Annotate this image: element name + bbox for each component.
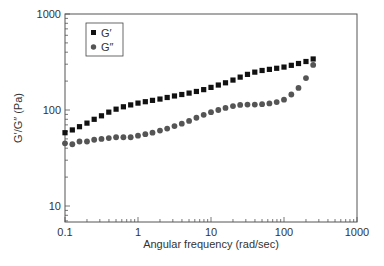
- data-point-circle: [281, 97, 287, 103]
- data-point-square: [311, 56, 316, 61]
- data-point-circle: [128, 134, 134, 140]
- data-point-square: [128, 102, 133, 107]
- data-point-circle: [296, 85, 302, 91]
- series-g-double-prime: [62, 62, 316, 147]
- data-point-square: [289, 63, 294, 68]
- data-point-square: [113, 107, 118, 112]
- data-point-square: [252, 70, 257, 75]
- data-point-square: [92, 117, 97, 122]
- x-tick-label: 10: [205, 226, 217, 238]
- data-point-circle: [69, 141, 75, 147]
- x-axis-ticks: 0.11101001000: [57, 217, 369, 238]
- data-point-square: [281, 64, 286, 69]
- data-point-square: [274, 66, 279, 71]
- data-point-square: [216, 82, 221, 87]
- data-point-square: [143, 99, 148, 104]
- data-point-circle: [303, 75, 309, 81]
- data-point-circle: [223, 105, 229, 111]
- chart: 0.11101001000 101001000 G′ G″ Angular fr…: [0, 0, 384, 266]
- data-point-square: [238, 75, 243, 80]
- legend-label-g-double-prime: G″: [101, 41, 114, 53]
- data-point-circle: [84, 139, 90, 145]
- data-point-square: [150, 98, 155, 103]
- data-point-square: [121, 104, 126, 109]
- data-point-square: [70, 127, 75, 132]
- data-point-circle: [164, 126, 170, 132]
- legend-circle-marker-icon: [91, 44, 96, 49]
- legend-label-g-prime: G′: [101, 27, 112, 39]
- data-point-circle: [91, 137, 97, 143]
- data-point-square: [62, 130, 67, 135]
- data-point-circle: [186, 118, 192, 124]
- data-point-square: [165, 95, 170, 100]
- data-point-circle: [99, 136, 105, 142]
- data-point-square: [186, 90, 191, 95]
- data-point-circle: [267, 101, 273, 107]
- legend-square-marker-icon: [91, 30, 96, 35]
- data-point-square: [157, 96, 162, 101]
- data-point-square: [223, 80, 228, 85]
- data-point-circle: [274, 99, 280, 105]
- data-point-circle: [157, 128, 163, 134]
- data-point-circle: [310, 62, 316, 68]
- data-point-square: [77, 124, 82, 129]
- data-point-square: [296, 61, 301, 66]
- data-point-circle: [62, 140, 68, 146]
- y-tick-label: 1000: [37, 8, 61, 20]
- data-point-circle: [135, 133, 141, 139]
- x-tick-label: 1000: [345, 226, 369, 238]
- y-axis-title: G′/G″ (Pa): [12, 93, 24, 143]
- data-point-square: [179, 92, 184, 97]
- data-point-circle: [237, 102, 243, 108]
- data-point-circle: [172, 123, 178, 129]
- x-tick-label: 0.1: [57, 226, 72, 238]
- data-point-circle: [259, 101, 265, 107]
- data-point-circle: [230, 103, 236, 109]
- data-point-square: [106, 110, 111, 115]
- data-point-square: [230, 77, 235, 82]
- data-point-square: [201, 87, 206, 92]
- y-tick-label: 10: [49, 200, 61, 212]
- data-point-circle: [142, 131, 148, 137]
- data-point-circle: [288, 92, 294, 98]
- data-point-circle: [201, 112, 207, 118]
- data-point-circle: [245, 102, 251, 108]
- legend: G′ G″: [86, 23, 123, 56]
- data-point-circle: [215, 107, 221, 113]
- data-point-square: [208, 85, 213, 90]
- data-point-circle: [150, 130, 156, 136]
- x-tick-label: 1: [135, 226, 141, 238]
- data-point-circle: [194, 115, 200, 121]
- data-point-circle: [208, 109, 214, 115]
- data-point-square: [194, 89, 199, 94]
- y-tick-label: 100: [43, 104, 61, 116]
- data-point-circle: [113, 134, 119, 140]
- data-point-circle: [106, 135, 112, 141]
- data-point-square: [84, 121, 89, 126]
- x-axis-title: Angular frequency (rad/sec): [143, 238, 279, 250]
- data-point-square: [99, 113, 104, 118]
- data-point-square: [303, 59, 308, 64]
- x-tick-label: 100: [275, 226, 293, 238]
- data-point-square: [267, 67, 272, 72]
- data-point-square: [172, 93, 177, 98]
- data-point-circle: [252, 102, 258, 108]
- data-point-circle: [77, 139, 83, 145]
- data-point-circle: [179, 121, 185, 127]
- data-point-square: [135, 100, 140, 105]
- data-point-square: [259, 68, 264, 73]
- data-point-square: [245, 72, 250, 77]
- data-point-circle: [121, 134, 127, 140]
